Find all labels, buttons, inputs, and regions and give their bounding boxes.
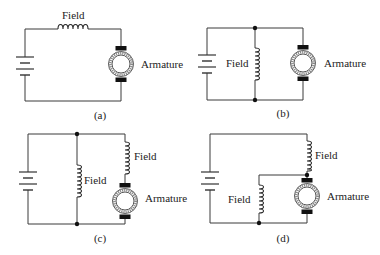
panel-c-wiring <box>28 134 125 224</box>
panel-c-compound-motor: Field Field Armature (c) <box>19 132 187 245</box>
armature-label: Armature <box>145 192 187 204</box>
series-field-label: Field <box>315 149 338 161</box>
junction-dot <box>75 222 79 226</box>
armature-label: Armature <box>141 58 183 70</box>
field-coil-icon <box>255 48 260 80</box>
panel-a-wiring <box>25 29 121 101</box>
battery-icon <box>201 172 219 190</box>
shunt-field-coil-icon <box>77 165 82 197</box>
junction-dot <box>253 98 257 102</box>
armature-icon <box>109 46 134 82</box>
panel-caption: (b) <box>277 107 290 120</box>
armature-icon <box>295 178 320 214</box>
panel-caption: (c) <box>94 232 107 245</box>
shunt-field-coil-icon <box>259 185 264 213</box>
series-field-coil-icon <box>125 142 130 174</box>
armature-icon <box>113 183 138 219</box>
series-field-label: Field <box>134 150 157 162</box>
panel-b-shunt-motor: Field Armature (b) <box>198 26 366 120</box>
junction-dot <box>253 26 257 30</box>
armature-icon <box>291 45 316 81</box>
junction-dot <box>257 221 261 225</box>
shunt-field-label: Field <box>228 193 251 205</box>
battery-icon <box>198 55 216 73</box>
field-label: Field <box>226 57 249 69</box>
panel-d-compound-motor: Field Field Armature (d) <box>201 134 369 245</box>
motor-diagrams: Field Armature (a) Field Armature (b) Fi… <box>0 0 380 255</box>
field-coil-icon <box>58 25 88 30</box>
battery-icon <box>16 57 34 75</box>
panel-a-series-motor: Field Armature (a) <box>16 9 183 122</box>
junction-dot <box>305 173 309 177</box>
armature-label: Armature <box>327 190 369 202</box>
battery-icon <box>19 172 37 190</box>
field-label: Field <box>62 9 85 21</box>
panel-caption: (d) <box>277 232 290 245</box>
panel-d-wiring <box>210 134 307 223</box>
junction-dot <box>75 132 79 136</box>
shunt-field-label: Field <box>84 174 107 186</box>
panel-caption: (a) <box>94 109 107 122</box>
armature-label: Armature <box>324 57 366 69</box>
series-field-coil-icon <box>307 141 312 171</box>
